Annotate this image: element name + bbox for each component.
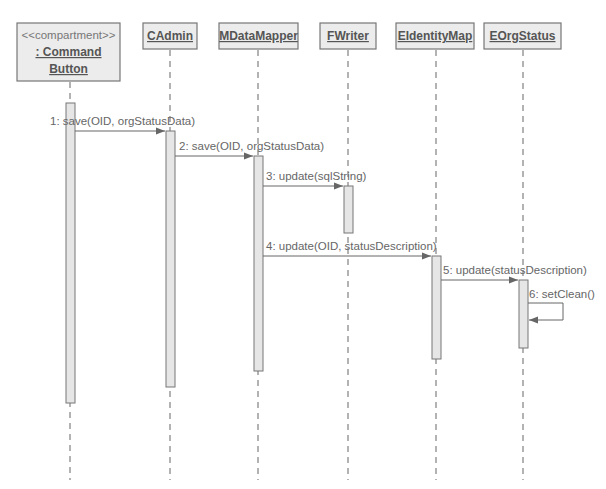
participant-command-button: <<compartment>> : Command Button bbox=[17, 23, 120, 81]
message-5: 5: update(statusDescription) bbox=[441, 264, 587, 280]
participant-fwriter: FWriter bbox=[320, 23, 376, 49]
stereotype-label: <<compartment>> bbox=[22, 29, 116, 41]
participant-eorgstatus: EOrgStatus bbox=[484, 23, 561, 49]
message-label: 1: save(OID, orgStatusData) bbox=[50, 115, 195, 127]
activation-cadmin bbox=[166, 131, 175, 387]
activation-eorgstatus bbox=[519, 280, 528, 348]
participant-mdatamapper: MDataMapper bbox=[219, 23, 298, 49]
participant-cadmin: CAdmin bbox=[143, 23, 197, 49]
participant-name-line1: : Command bbox=[36, 45, 102, 59]
message-label: 3: update(sqlString) bbox=[266, 170, 367, 182]
participant-name: EIdentityMap bbox=[398, 29, 473, 43]
activation-mdatamapper bbox=[254, 156, 263, 371]
participant-eidentitymap: EIdentityMap bbox=[396, 23, 474, 49]
participant-name: EOrgStatus bbox=[489, 29, 555, 43]
message-3: 3: update(sqlString) bbox=[263, 170, 367, 186]
message-2: 2: save(OID, orgStatusData) bbox=[175, 140, 324, 156]
activation-command-button bbox=[66, 103, 75, 403]
participant-name: FWriter bbox=[327, 29, 369, 43]
sequence-diagram: <<compartment>> : Command Button CAdmin … bbox=[0, 0, 606, 489]
activation-fwriter bbox=[344, 186, 353, 233]
message-label: 5: update(statusDescription) bbox=[443, 264, 587, 276]
activation-eidentitymap bbox=[432, 256, 441, 359]
message-label: 4: update(OID, statusDescription) bbox=[266, 240, 437, 252]
message-4: 4: update(OID, statusDescription) bbox=[263, 240, 437, 256]
message-label: 2: save(OID, orgStatusData) bbox=[179, 140, 324, 152]
participant-name-line2: Button bbox=[49, 62, 88, 76]
participant-name: MDataMapper bbox=[219, 29, 298, 43]
message-6-self-call: 6: setClean() bbox=[528, 288, 595, 320]
participant-name: CAdmin bbox=[147, 29, 193, 43]
message-label: 6: setClean() bbox=[529, 288, 595, 300]
